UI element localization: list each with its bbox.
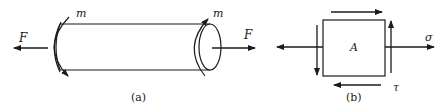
cylinder	[56, 24, 221, 70]
normal-stress-label: σ	[425, 31, 433, 44]
force-left-label: F	[18, 31, 28, 45]
element-label: A	[349, 41, 358, 54]
force-right-label: F	[243, 28, 253, 42]
moment-right-label: m	[213, 7, 223, 20]
figure-b: A σ τ (b)	[277, 12, 434, 104]
moment-right-arrow	[194, 19, 208, 76]
figure-a: F F m m (a)	[14, 7, 255, 104]
caption-b: (b)	[346, 91, 362, 104]
moment-left-label: m	[76, 7, 86, 20]
shear-stress-label: τ	[393, 81, 400, 94]
caption-a: (a)	[131, 91, 146, 104]
diagram-canvas: F F m m (a) A σ τ (b)	[0, 0, 447, 108]
